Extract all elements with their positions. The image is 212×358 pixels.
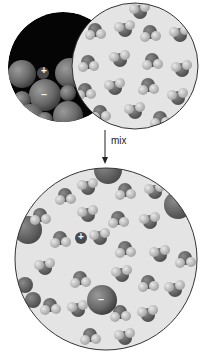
- cation-label-solid: +: [41, 65, 47, 76]
- solution-panel: [14, 156, 197, 350]
- dissolution-diagram: + – mix + –: [0, 0, 212, 358]
- mix-label: mix: [111, 135, 127, 146]
- cation-label-solution: +: [78, 231, 84, 242]
- anion-label-solution: –: [98, 293, 104, 305]
- anion-label-solid: –: [41, 88, 47, 100]
- mix-arrow: [102, 130, 108, 164]
